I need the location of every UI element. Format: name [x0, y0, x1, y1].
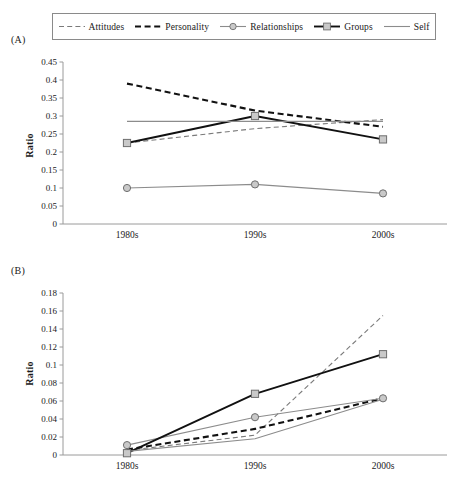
legend-item-groups: Groups — [314, 21, 373, 32]
series-line-personality — [127, 84, 383, 127]
x-tick-label: 1990s — [244, 230, 267, 240]
data-point-groups — [251, 390, 258, 397]
data-point-groups — [379, 136, 386, 143]
series-line-personality — [127, 398, 383, 449]
thick-dashed-line-icon — [135, 21, 161, 32]
y-tick-label: 0.02 — [41, 432, 57, 442]
legend-item-self: Self — [384, 21, 430, 32]
x-tick-label: 1990s — [244, 461, 267, 471]
y-tick-label: 0.3 — [46, 111, 58, 121]
y-tick-label: 0.06 — [41, 396, 57, 406]
x-tick-label: 2000s — [372, 461, 395, 471]
y-tick-label: 0.2 — [46, 147, 57, 157]
x-tick-label: 1980s — [116, 230, 139, 240]
series-line-attitudes — [127, 120, 383, 143]
data-point-groups — [123, 450, 130, 457]
data-point-relationships — [251, 181, 258, 188]
data-point-groups — [123, 139, 130, 146]
y-tick-label: 0.18 — [41, 288, 57, 298]
legend-item-label: Attitudes — [89, 22, 125, 32]
y-tick-label: 0.16 — [41, 306, 57, 316]
y-tick-label: 0.08 — [41, 378, 57, 388]
legend-item-personality: Personality — [135, 21, 209, 32]
legend-item-attitudes: Attitudes — [59, 21, 125, 32]
figure-container: AttitudesPersonalityRelationshipsGroupsS… — [0, 0, 459, 495]
y-tick-label: 0 — [53, 450, 58, 460]
y-tick-label: 0.45 — [41, 57, 57, 67]
data-point-relationships — [123, 442, 130, 449]
panel-b-chart: 00.020.040.060.080.10.120.140.160.181980… — [0, 283, 459, 488]
legend-item-label: Self — [414, 22, 430, 32]
circle-marker-line-icon — [220, 21, 246, 32]
thin-dashed-line-icon — [59, 21, 85, 32]
legend-item-label: Groups — [344, 22, 373, 32]
data-point-relationships — [379, 395, 386, 402]
legend-item-relationships: Relationships — [220, 21, 303, 32]
y-tick-label: 0.4 — [46, 75, 58, 85]
series-line-relationships — [127, 398, 383, 445]
y-tick-label: 0.35 — [41, 93, 57, 103]
x-tick-label: 2000s — [372, 230, 395, 240]
y-tick-label: 0.12 — [41, 342, 57, 352]
panel-a-chart: 00.050.10.150.20.250.30.350.40.451980s19… — [0, 52, 459, 252]
panel-b-label: (B) — [11, 265, 25, 276]
data-point-groups — [379, 351, 386, 358]
square-marker-line-icon — [314, 21, 340, 32]
panel-a-label: (A) — [11, 34, 25, 45]
chart-legend: AttitudesPersonalityRelationshipsGroupsS… — [52, 13, 436, 40]
y-tick-label: 0.25 — [41, 129, 57, 139]
solid-line-icon — [384, 21, 410, 32]
data-point-relationships — [123, 184, 130, 191]
data-point-relationships — [379, 190, 386, 197]
y-tick-label: 0.1 — [46, 360, 57, 370]
legend-item-label: Personality — [165, 22, 209, 32]
y-tick-label: 0.05 — [41, 201, 57, 211]
series-line-attitudes — [127, 316, 383, 451]
data-point-groups — [251, 112, 258, 119]
y-tick-label: 0.15 — [41, 165, 57, 175]
data-point-relationships — [251, 414, 258, 421]
y-tick-label: 0.1 — [46, 183, 57, 193]
legend-item-label: Relationships — [250, 22, 303, 32]
x-tick-label: 1980s — [116, 461, 139, 471]
y-tick-label: 0.04 — [41, 414, 57, 424]
y-tick-label: 0.14 — [41, 324, 57, 334]
y-tick-label: 0 — [53, 219, 58, 229]
